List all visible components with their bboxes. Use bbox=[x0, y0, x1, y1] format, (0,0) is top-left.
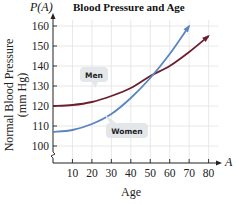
x-tick-label: 70 bbox=[183, 167, 195, 179]
x-tick-label: 30 bbox=[106, 167, 118, 179]
grid bbox=[53, 20, 218, 163]
y-tick-label: 110 bbox=[32, 120, 49, 132]
y-tick-label: 130 bbox=[32, 80, 50, 92]
callout-text: Men bbox=[85, 71, 103, 80]
x-tick-label: 50 bbox=[145, 167, 157, 179]
y-tick-label: 120 bbox=[32, 100, 50, 112]
y-tick-label: 150 bbox=[32, 40, 50, 52]
axis-break-icon bbox=[51, 152, 55, 158]
x-axis-symbol: A bbox=[224, 155, 233, 169]
line-women bbox=[53, 26, 189, 132]
x-axis-label: Age bbox=[121, 185, 141, 199]
series-lines bbox=[53, 25, 210, 132]
y-axis-label-line1: Normal Blood Pressure bbox=[2, 39, 16, 152]
y-tick-label: 100 bbox=[32, 140, 50, 152]
label-men: Men bbox=[80, 67, 108, 88]
function-label: P(A) bbox=[29, 0, 53, 14]
x-tick-label: 80 bbox=[203, 167, 215, 179]
x-axis-arrow-icon bbox=[216, 161, 222, 166]
x-tick-label: 40 bbox=[125, 167, 137, 179]
y-tick-label: 160 bbox=[32, 20, 50, 32]
x-tick-label: 10 bbox=[67, 167, 79, 179]
callout-text: Women bbox=[111, 127, 142, 136]
x-tick-label: 60 bbox=[164, 167, 176, 179]
y-axis-label-line2: (mm Hg) bbox=[15, 73, 29, 117]
axes: 1020304050607080100110120130140150160 bbox=[32, 13, 222, 179]
label-women: Women bbox=[104, 114, 148, 138]
blood-pressure-chart: 1020304050607080100110120130140150160 Me… bbox=[0, 0, 239, 204]
y-tick-label: 140 bbox=[32, 60, 50, 72]
x-tick-label: 20 bbox=[86, 167, 98, 179]
chart-title: Blood Pressure and Age bbox=[73, 1, 185, 13]
callout-tail bbox=[92, 82, 98, 88]
